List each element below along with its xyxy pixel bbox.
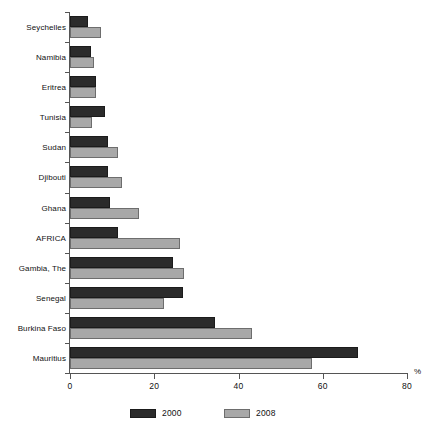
chart-legend: 2000 2008	[0, 404, 436, 424]
legend-item-2000: 2000	[130, 408, 182, 418]
y-axis-tick	[65, 253, 70, 254]
x-axis-tick	[239, 374, 240, 379]
y-axis-category-label: Burkina Faso	[18, 323, 66, 332]
y-axis-tick	[65, 283, 70, 284]
bar-2008	[70, 328, 252, 339]
x-axis-unit-label: %	[414, 367, 421, 376]
bar-2008	[70, 238, 180, 249]
bar-2000	[70, 227, 118, 238]
x-axis-tick-label: 0	[68, 381, 73, 391]
y-axis-category-label: Eritrea	[42, 83, 66, 92]
y-axis-tick	[65, 12, 70, 13]
y-axis-category-label: Senegal	[36, 293, 66, 302]
bar-2000	[70, 347, 358, 358]
bar-2008	[70, 147, 118, 158]
y-axis-tick	[65, 72, 70, 73]
y-axis-tick	[65, 313, 70, 314]
bar-2000	[70, 197, 110, 208]
legend-swatch-2008	[224, 409, 250, 418]
bar-2008	[70, 208, 139, 219]
bar-chart: SeychellesNamibiaEritreaTunisiaSudanDjib…	[0, 0, 436, 433]
x-axis-tick	[70, 374, 71, 379]
bar-2000	[70, 76, 96, 87]
bar-2000	[70, 16, 88, 27]
bar-2008	[70, 358, 312, 369]
x-axis-tick	[154, 374, 155, 379]
bar-2000	[70, 287, 183, 298]
bar-2008	[70, 87, 96, 98]
y-axis-tick	[65, 343, 70, 344]
bar-2008	[70, 298, 164, 309]
y-axis-tick	[65, 42, 70, 43]
bar-2000	[70, 46, 91, 57]
y-axis-category-label: Djibouti	[39, 173, 66, 182]
bar-2000	[70, 106, 105, 117]
bar-2000	[70, 166, 108, 177]
y-axis-category-label: Tunisia	[40, 113, 66, 122]
x-axis-tick-label: 60	[318, 381, 328, 391]
y-axis-category-label: Ghana	[41, 203, 66, 212]
legend-item-2008: 2008	[224, 408, 276, 418]
x-axis-tick	[407, 374, 408, 379]
y-axis-category-label: Mauritius	[33, 353, 66, 362]
bar-2008	[70, 268, 184, 279]
bar-2008	[70, 177, 122, 188]
bar-2000	[70, 317, 215, 328]
x-axis-tick-label: 40	[234, 381, 244, 391]
legend-swatch-2000	[130, 409, 156, 418]
y-axis-category-label: Seychelles	[26, 23, 66, 32]
y-axis-category-label: AFRICA	[36, 233, 66, 242]
y-axis-tick	[65, 162, 70, 163]
bar-2008	[70, 57, 94, 68]
y-axis-tick	[65, 132, 70, 133]
bar-2000	[70, 136, 108, 147]
y-axis-category-label: Namibia	[36, 53, 66, 62]
y-axis-tick	[65, 193, 70, 194]
x-axis-tick-label: 20	[149, 381, 159, 391]
y-axis-category-label: Sudan	[42, 143, 66, 152]
legend-label-2000: 2000	[162, 408, 182, 418]
y-axis-tick	[65, 223, 70, 224]
bar-2008	[70, 27, 101, 38]
x-axis-tick	[323, 374, 324, 379]
bar-2000	[70, 257, 173, 268]
y-axis-tick	[65, 102, 70, 103]
bar-2008	[70, 117, 92, 128]
y-axis-category-label: Gambia, The	[19, 263, 66, 272]
x-axis-tick-label: 80	[402, 381, 412, 391]
legend-label-2008: 2008	[256, 408, 276, 418]
